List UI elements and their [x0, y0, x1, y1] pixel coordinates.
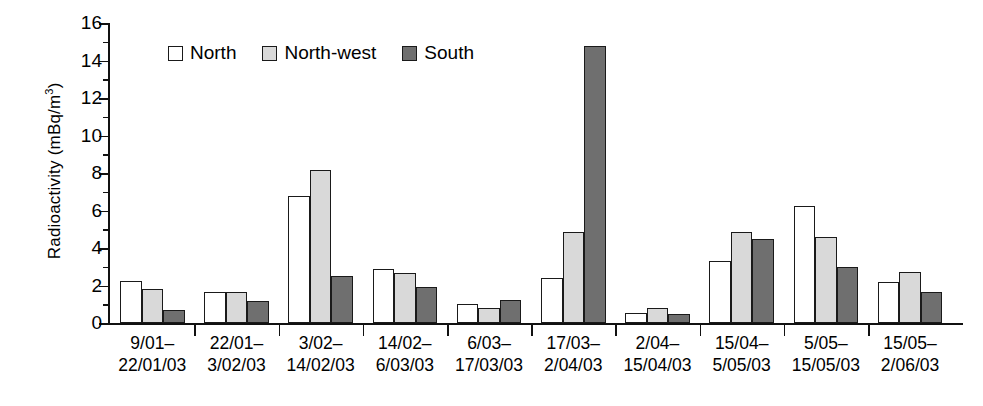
x-label-line-2: 15/04/03 [615, 354, 699, 376]
bar-north-2 [204, 292, 226, 323]
bar-north-west-6 [563, 232, 585, 323]
bar-north-west-2 [226, 292, 248, 323]
bar-south-3 [331, 276, 353, 323]
x-label-line-2: 17/03/03 [447, 354, 531, 376]
y-tick-minor [103, 79, 109, 80]
x-label-line-1: 6/03– [447, 332, 531, 354]
y-tick-label: 2 [91, 275, 102, 297]
y-tick-label: 16 [81, 12, 102, 34]
bar-north-west-4 [394, 273, 416, 323]
y-axis-title: Radioactivity (mBq/m3) [43, 21, 65, 321]
bar-south-10 [921, 292, 943, 323]
bar-south-2 [247, 301, 269, 323]
plot-area: 0246810121416 [108, 23, 963, 323]
x-label-line-1: 15/04– [700, 332, 784, 354]
x-label-line-1: 9/01– [110, 332, 194, 354]
x-label-line-2: 6/03/03 [363, 354, 447, 376]
x-axis-label-6: 17/03–2/04/03 [531, 332, 615, 376]
y-tick-minor [103, 229, 109, 230]
x-label-line-1: 17/03– [531, 332, 615, 354]
y-axis-line [108, 23, 110, 323]
y-tick-label: 6 [91, 200, 102, 222]
x-label-line-1: 5/05– [784, 332, 868, 354]
x-label-line-2: 5/05/03 [700, 354, 784, 376]
y-tick-label: 12 [81, 87, 102, 109]
y-tick-minor [103, 154, 109, 155]
bar-south-4 [416, 287, 438, 323]
bar-north-6 [541, 278, 563, 323]
x-label-line-2: 15/05/03 [784, 354, 868, 376]
x-label-line-1: 3/02– [279, 332, 363, 354]
bar-north-7 [625, 313, 647, 323]
bar-north-9 [794, 206, 816, 323]
bar-north-west-5 [478, 308, 500, 323]
bar-north-4 [373, 269, 395, 323]
y-tick-label: 10 [81, 125, 102, 147]
y-axis-title-close: ) [45, 82, 64, 88]
x-label-line-2: 3/02/03 [194, 354, 278, 376]
x-axis-label-5: 6/03–17/03/03 [447, 332, 531, 376]
x-axis-label-10: 15/05–2/06/03 [868, 332, 952, 376]
bar-north-1 [120, 281, 142, 323]
x-axis-label-8: 15/04–5/05/03 [700, 332, 784, 376]
x-label-line-1: 14/02– [363, 332, 447, 354]
bar-south-9 [837, 267, 859, 323]
bar-north-west-1 [142, 289, 164, 323]
bar-north-west-7 [647, 308, 669, 323]
bar-north-3 [288, 196, 310, 324]
radioactivity-bar-chart: Radioactivity (mBq/m3) NorthNorth-westSo… [0, 0, 983, 406]
bar-south-6 [584, 46, 606, 323]
bar-north-10 [878, 282, 900, 323]
y-axis-title-exponent: 3 [43, 88, 55, 94]
y-tick-label: 8 [91, 162, 102, 184]
bar-south-8 [752, 239, 774, 323]
x-label-line-1: 22/01– [194, 332, 278, 354]
y-tick-minor [103, 117, 109, 118]
bar-north-5 [457, 304, 479, 323]
bar-north-west-9 [815, 237, 837, 323]
y-tick-label: 14 [81, 50, 102, 72]
x-label-line-2: 2/04/03 [531, 354, 615, 376]
y-tick-label: 4 [91, 237, 102, 259]
x-axis-label-4: 14/02–6/03/03 [363, 332, 447, 376]
x-label-line-2: 2/06/03 [868, 354, 952, 376]
x-axis-label-7: 2/04–15/04/03 [615, 332, 699, 376]
x-label-line-1: 2/04– [615, 332, 699, 354]
bar-south-5 [500, 300, 522, 323]
bar-north-west-8 [731, 232, 753, 323]
bar-north-west-10 [899, 272, 921, 323]
y-tick-label: 0 [91, 312, 102, 334]
bar-north-8 [709, 261, 731, 323]
x-label-line-1: 15/05– [868, 332, 952, 354]
y-tick-minor [103, 304, 109, 305]
y-tick-minor [103, 267, 109, 268]
x-axis-label-3: 3/02–14/02/03 [279, 332, 363, 376]
y-tick-minor [103, 192, 109, 193]
x-axis-label-9: 5/05–15/05/03 [784, 332, 868, 376]
y-tick-minor [103, 42, 109, 43]
x-axis-label-1: 9/01–22/01/03 [110, 332, 194, 376]
bar-south-7 [668, 314, 690, 323]
bar-south-1 [163, 310, 185, 323]
x-label-line-2: 14/02/03 [279, 354, 363, 376]
y-axis-title-text: Radioactivity (mBq/m [45, 95, 64, 260]
x-axis-label-2: 22/01–3/02/03 [194, 332, 278, 376]
bar-north-west-3 [310, 170, 332, 323]
x-label-line-2: 22/01/03 [110, 354, 194, 376]
